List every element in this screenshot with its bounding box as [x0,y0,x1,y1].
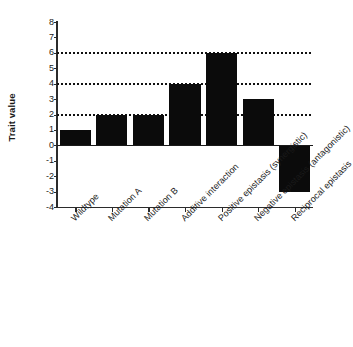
y-tick-label: -2 [32,172,54,181]
y-axis-tick-labels: 876543210-1-2-3-4 [30,0,54,347]
y-tick-label: 0 [32,141,54,150]
x-tick-label: Mutation A [106,186,143,223]
bar [60,130,91,145]
y-tick-label: 1 [32,125,54,134]
bar [133,115,164,146]
y-tick-label: 2 [32,110,54,119]
y-axis-title: Trait value [6,88,17,148]
y-tick-label: 3 [32,95,54,104]
y-tick-label: -4 [32,203,54,212]
bar [243,99,274,145]
y-tick-label: -1 [32,156,54,165]
gridline [57,52,313,54]
y-tick-label: 5 [32,64,54,73]
y-tick-label: 6 [32,48,54,57]
y-tick-label: -3 [32,187,54,196]
bar [96,115,127,146]
bar [169,84,200,146]
zero-baseline [57,145,313,146]
y-tick-label: 4 [32,79,54,88]
y-tick-label: 7 [32,33,54,42]
y-tick-label: 8 [32,18,54,27]
bar [206,53,237,146]
x-tick-label: Mutation B [142,185,180,223]
